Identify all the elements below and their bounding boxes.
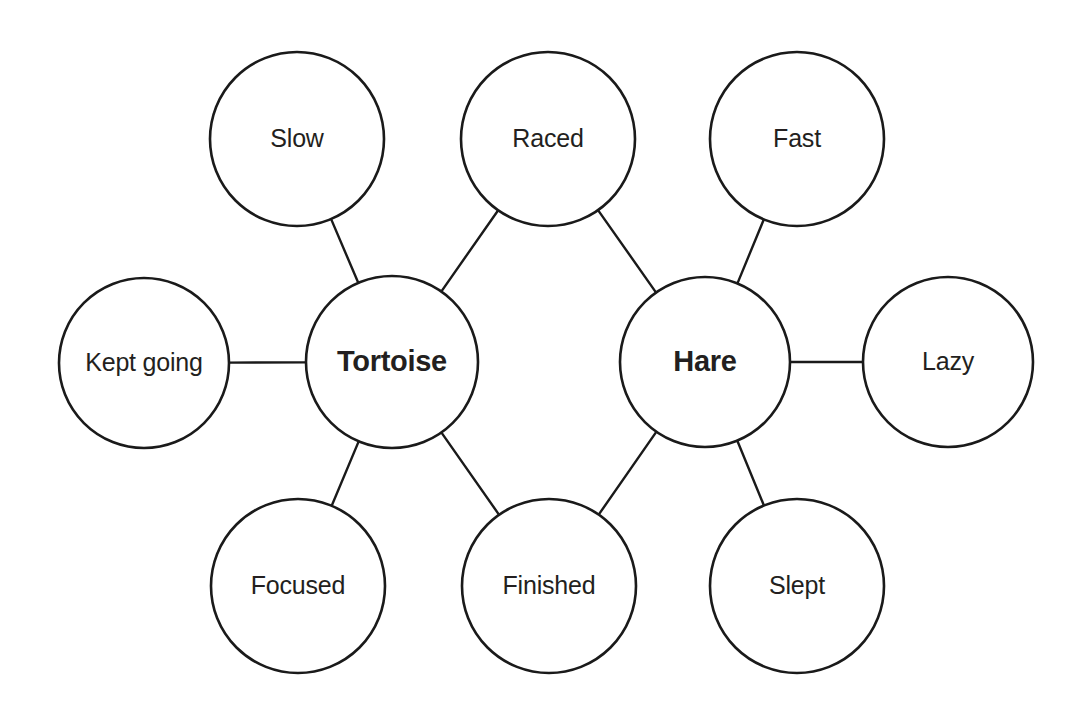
connector-line [737, 219, 764, 285]
node-label-kept-going: Kept going [85, 348, 203, 376]
node-label-lazy: Lazy [922, 347, 975, 375]
node-lazy[interactable]: Lazy [863, 277, 1033, 447]
node-label-focused: Focused [251, 571, 346, 599]
connector-line [598, 209, 657, 293]
node-slow[interactable]: Slow [210, 52, 384, 226]
diagram-canvas: SlowRacedFastKept goingTortoiseHareLazyF… [0, 0, 1087, 716]
connector-line [331, 218, 359, 284]
node-label-hare: Hare [673, 345, 736, 377]
node-fast[interactable]: Fast [710, 52, 884, 226]
node-raced[interactable]: Raced [461, 52, 635, 226]
node-label-raced: Raced [512, 124, 583, 152]
node-finished[interactable]: Finished [462, 499, 636, 673]
node-label-slept: Slept [769, 571, 825, 599]
node-label-tortoise: Tortoise [337, 345, 447, 377]
node-kept-going[interactable]: Kept going [59, 278, 229, 448]
concept-map-svg: SlowRacedFastKept goingTortoiseHareLazyF… [0, 0, 1087, 716]
node-layer: SlowRacedFastKept goingTortoiseHareLazyF… [59, 52, 1033, 673]
connector-line [737, 440, 764, 507]
connector-line [441, 432, 500, 516]
connector-line [331, 440, 359, 506]
node-focused[interactable]: Focused [211, 499, 385, 673]
connector-line [441, 209, 499, 292]
node-hare[interactable]: Hare [620, 277, 790, 447]
node-label-fast: Fast [773, 124, 821, 152]
node-label-slow: Slow [270, 124, 325, 152]
connector-line [598, 431, 657, 516]
node-label-finished: Finished [503, 571, 596, 599]
node-slept[interactable]: Slept [710, 499, 884, 673]
node-tortoise[interactable]: Tortoise [306, 276, 478, 448]
